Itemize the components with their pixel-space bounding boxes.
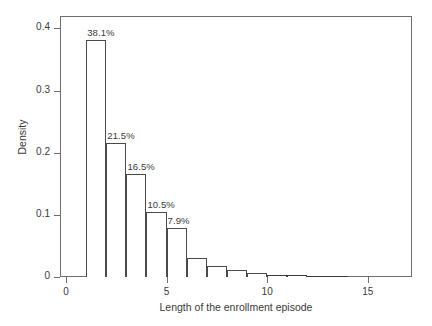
x-axis-tick: [66, 277, 67, 283]
y-axis-tick-label: 0.3: [0, 84, 50, 95]
y-axis-tick: [54, 215, 60, 216]
histogram-bar: [267, 275, 287, 277]
histogram-bar: [328, 276, 348, 278]
x-axis-tick-label: 0: [46, 286, 86, 297]
histogram-bar: [287, 275, 307, 277]
y-axis-tick-label: 0.1: [0, 208, 50, 219]
y-axis-tick: [54, 153, 60, 154]
bar-value-label: 38.1%: [87, 27, 114, 38]
x-axis-tick: [267, 277, 268, 283]
y-axis-tick-label: 0: [0, 270, 50, 281]
y-axis-tick: [54, 91, 60, 92]
y-axis-tick: [54, 28, 60, 29]
histogram-bar: [86, 40, 106, 277]
x-axis-tick-label: 15: [348, 286, 388, 297]
histogram-bar: [146, 212, 166, 277]
bar-value-label: 10.5%: [147, 199, 174, 210]
bar-value-label: 21.5%: [107, 130, 134, 141]
x-axis-title: Length of the enrollment episode: [60, 301, 412, 313]
histogram-bar: [307, 276, 327, 278]
histogram-bars: [60, 16, 412, 277]
x-axis-tick: [368, 277, 369, 283]
x-axis-tick-label: 10: [247, 286, 287, 297]
bar-value-label: 7.9%: [168, 215, 190, 226]
histogram-bar: [247, 273, 267, 277]
histogram-bar: [106, 143, 126, 277]
histogram-bar: [187, 258, 207, 277]
bar-value-label: 16.5%: [127, 161, 154, 172]
histogram-bar: [167, 228, 187, 277]
histogram-bar: [207, 266, 227, 277]
histogram-bar: [126, 174, 146, 277]
histogram-figure: 38.1%21.5%16.5%10.5%7.9% 00.10.20.30.4 D…: [0, 0, 432, 326]
x-axis-tick-label: 5: [147, 286, 187, 297]
x-axis-tick: [167, 277, 168, 283]
y-axis-tick-label: 0.4: [0, 21, 50, 32]
y-axis-tick: [54, 277, 60, 278]
y-axis-title: Density: [16, 97, 28, 177]
histogram-bar: [227, 270, 247, 277]
